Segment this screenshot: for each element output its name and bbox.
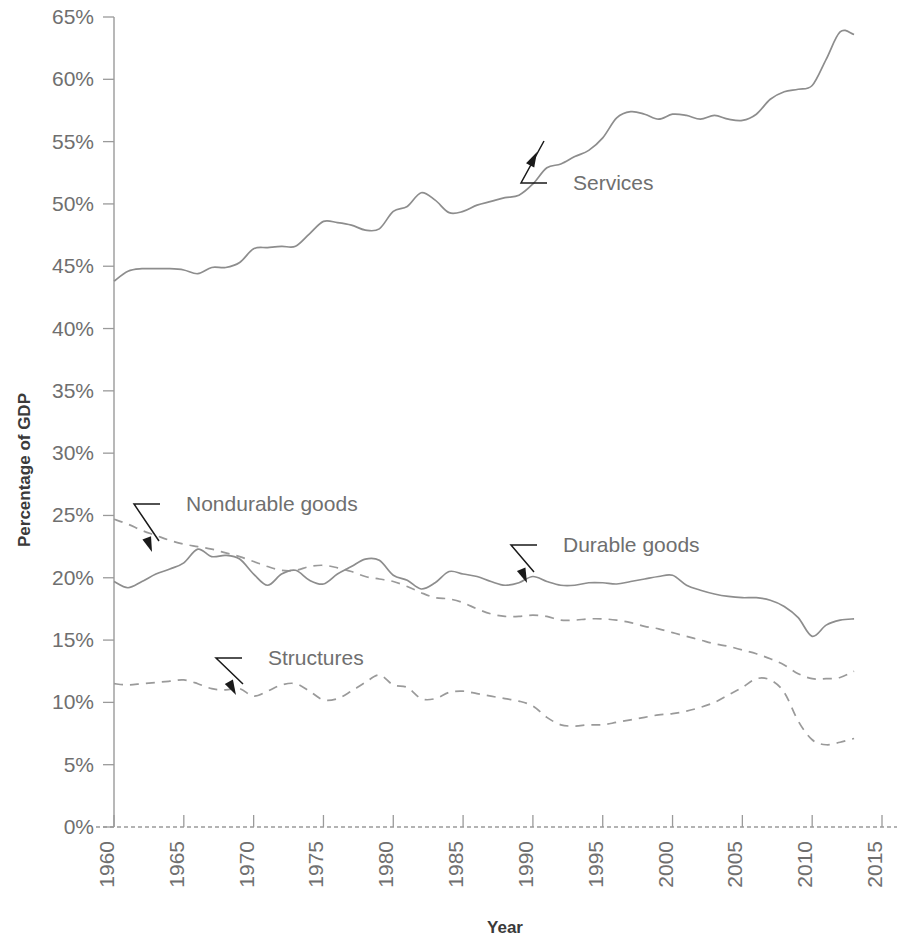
y-tick-label: 15% — [52, 628, 94, 651]
series-line-structures — [114, 675, 854, 745]
y-tick-label: 0% — [64, 815, 94, 838]
x-tick-label: 2000 — [654, 841, 677, 888]
annotation-arrowhead — [142, 536, 152, 552]
annotation-label: Durable goods — [563, 533, 700, 556]
annotation-arrowhead — [225, 680, 236, 695]
y-tick-label: 10% — [52, 690, 94, 713]
chart-figure: 0%5%10%15%20%25%30%35%40%45%50%55%60%65%… — [0, 0, 910, 940]
series-line-durable-goods — [114, 549, 854, 636]
y-tick-label: 65% — [52, 5, 94, 28]
x-tick-label: 1990 — [514, 841, 537, 888]
x-tick-label: 1970 — [235, 841, 258, 888]
annotation-leader-line — [511, 545, 537, 572]
chart-canvas: 0%5%10%15%20%25%30%35%40%45%50%55%60%65%… — [0, 0, 910, 940]
annotation-label: Structures — [268, 646, 364, 669]
annotation-label: Services — [573, 171, 654, 194]
x-tick-label: 1995 — [584, 841, 607, 888]
annotation-services: Services — [521, 141, 654, 194]
x-tick-label: 2005 — [723, 841, 746, 888]
series-annotations: ServicesNondurable goodsDurable goodsStr… — [134, 141, 700, 695]
x-axis-tick-labels: 1960196519701975198019851990199520002005… — [95, 841, 886, 888]
annotation-arrowhead — [526, 152, 537, 167]
x-tick-label: 1960 — [95, 841, 118, 888]
x-tick-label: 1965 — [165, 841, 188, 888]
y-axis-title: Percentage of GDP — [15, 393, 34, 547]
annotation-structures: Structures — [216, 646, 364, 695]
y-tick-label: 20% — [52, 566, 94, 589]
x-tick-label: 1985 — [444, 841, 467, 888]
y-tick-label: 55% — [52, 130, 94, 153]
x-tick-label: 1980 — [374, 841, 397, 888]
y-tick-label: 45% — [52, 254, 94, 277]
x-tick-label: 2010 — [793, 841, 816, 888]
series-line-nondurable-goods — [114, 519, 854, 679]
y-tick-label: 40% — [52, 317, 94, 340]
annotation-label: Nondurable goods — [186, 492, 358, 515]
x-tick-label: 1975 — [304, 841, 327, 888]
y-tick-label: 30% — [52, 441, 94, 464]
y-tick-label: 25% — [52, 503, 94, 526]
y-tick-label: 50% — [52, 192, 94, 215]
x-axis-title: Year — [487, 918, 523, 937]
y-tick-label: 60% — [52, 67, 94, 90]
y-axis-tick-labels: 0%5%10%15%20%25%30%35%40%45%50%55%60%65% — [52, 5, 94, 838]
x-tick-label: 2015 — [863, 841, 886, 888]
series-line-services — [114, 30, 854, 281]
y-tick-label: 35% — [52, 379, 94, 402]
series-lines — [114, 30, 854, 744]
annotation-nondurable-goods: Nondurable goods — [134, 492, 358, 552]
x-axis-ticks — [114, 815, 882, 827]
annotation-leader-line — [134, 504, 160, 541]
annotation-leader-line — [216, 658, 243, 684]
y-axis-ticks — [103, 17, 114, 827]
y-tick-label: 5% — [64, 753, 94, 776]
